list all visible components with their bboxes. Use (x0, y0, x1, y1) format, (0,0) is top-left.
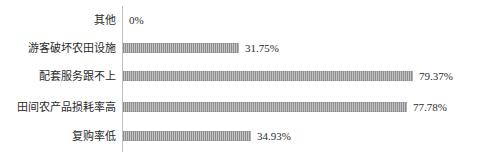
chart-row: 田间农产品损耗率高 77.78% (0, 93, 477, 121)
chart-row: 配套服务跟不上 79.37% (0, 62, 477, 90)
bar (123, 131, 251, 141)
category-label: 游客破坏农田设施 (0, 42, 116, 54)
bar (123, 102, 407, 112)
chart-rows: 其他 0% 游客破坏农田设施 31.75% 配套服务跟不上 79.37% 田间农… (0, 0, 477, 163)
bar (123, 43, 239, 53)
chart-row: 其他 0% (0, 6, 477, 34)
bar-area: 31.75% (123, 34, 279, 62)
category-label: 复购率低 (0, 130, 116, 142)
bar-area: 34.93% (123, 122, 291, 150)
category-label: 田间农产品损耗率高 (0, 101, 116, 113)
value-label: 79.37% (419, 70, 453, 82)
chart-row: 复购率低 34.93% (0, 122, 477, 150)
bar-area: 77.78% (123, 93, 447, 121)
category-label: 配套服务跟不上 (0, 70, 116, 82)
bar-area: 0% (123, 6, 144, 34)
value-label: 31.75% (245, 42, 279, 54)
category-label: 其他 (0, 14, 116, 26)
value-label: 34.93% (257, 130, 291, 142)
bar-area: 79.37% (123, 62, 453, 90)
bar (123, 71, 413, 81)
value-label: 0% (129, 14, 144, 26)
value-label: 77.78% (413, 101, 447, 113)
chart-row: 游客破坏农田设施 31.75% (0, 34, 477, 62)
horizontal-bar-chart: 其他 0% 游客破坏农田设施 31.75% 配套服务跟不上 79.37% 田间农… (0, 0, 477, 163)
